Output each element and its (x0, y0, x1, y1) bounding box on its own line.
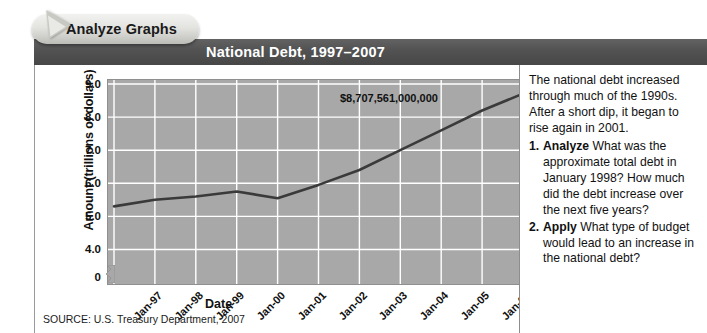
analyze-graphs-tab[interactable]: Analyze Graphs (32, 14, 199, 44)
x-axis-label: Date (205, 297, 232, 311)
x-tick-label: Jan-03 (377, 289, 410, 322)
y-tick-label: 6.0 (67, 177, 101, 189)
line-chart-svg (108, 80, 531, 284)
x-tick-label: Jan-01 (295, 289, 328, 322)
analyze-graphs-feature: Analyze Graphs National Debt, 1997–2007 … (0, 0, 707, 333)
y-tick-label: 4.0 (67, 243, 101, 255)
question-item: 2.Apply What type of budget would lead t… (529, 220, 697, 268)
source-note: SOURCE: U.S. Treasury Department, 2007 (43, 313, 245, 325)
y-tick-label: 0 (67, 271, 101, 283)
chart-panel: Amount (trillions of dollars) 9.08.07.06… (34, 65, 518, 333)
question-body: Analyze What was the approximate total d… (543, 139, 697, 218)
intro-paragraph: The national debt increased through much… (529, 73, 697, 136)
tab-label: Analyze Graphs (66, 21, 177, 37)
x-tick-label: Jan-00 (254, 289, 287, 322)
y-tick-label: 8.0 (67, 111, 101, 123)
y-tick-label: 7.0 (67, 144, 101, 156)
y-tick-label: 9.0 (67, 78, 101, 90)
question-verb: Apply (543, 220, 577, 234)
y-tick-label: 5.0 (67, 210, 101, 222)
x-tick-label: Jan-05 (458, 289, 491, 322)
question-verb: Analyze (543, 139, 589, 153)
plot-area: $8,707,561,000,000 (107, 79, 532, 285)
x-tick-label: Jan-04 (418, 289, 451, 322)
question-body: Apply What type of budget would lead to … (543, 220, 697, 268)
x-axis-ticks: Jan-97Jan-98Jan-99Jan-00Jan-01Jan-02Jan-… (35, 289, 535, 333)
gridlines (108, 80, 531, 284)
question-number: 2. (529, 220, 543, 268)
question-item: 1.Analyze What was the approximate total… (529, 139, 697, 218)
question-list: 1.Analyze What was the approximate total… (529, 139, 697, 267)
x-tick-label: Jan-02 (336, 289, 369, 322)
chart-title: National Debt, 1997–2007 (206, 44, 385, 60)
axis-break-icon (101, 265, 115, 283)
question-number: 1. (529, 139, 543, 218)
data-label-annotation: $8,707,561,000,000 (340, 92, 438, 104)
question-panel: The national debt increased through much… (519, 65, 707, 333)
